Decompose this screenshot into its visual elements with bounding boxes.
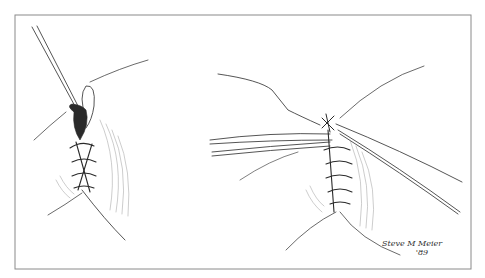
illustration-drawing xyxy=(0,0,485,278)
surgical-illustration: Steve M Meier '89 xyxy=(0,0,485,278)
artist-signature: Steve M Meier '89 xyxy=(382,239,442,257)
right-panel xyxy=(210,66,462,255)
left-panel xyxy=(32,26,148,240)
signature-year: '89 xyxy=(382,248,442,257)
signature-name: Steve M Meier xyxy=(382,239,442,248)
